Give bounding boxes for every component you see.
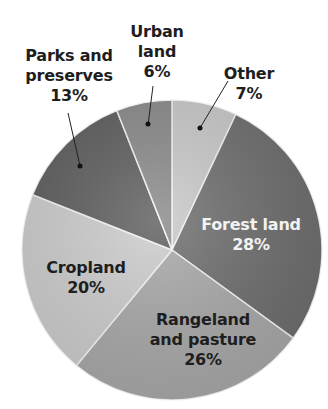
label-urban-value: 6% [122, 62, 192, 82]
leader-dot-parks [78, 164, 83, 169]
label-parks-line1: Parks and [14, 46, 124, 66]
label-forest-value: 28% [196, 235, 306, 255]
label-rangeland-line2: and pasture [138, 330, 268, 350]
label-other: Other 7% [214, 64, 284, 104]
label-parks-value: 13% [14, 86, 124, 106]
label-parks-line2: preserves [14, 66, 124, 86]
leader-dot-urban [146, 122, 151, 127]
leader-dot-other [198, 126, 203, 131]
label-cropland-line1: Cropland [36, 258, 136, 278]
label-rangeland-line1: Rangeland [138, 310, 268, 330]
label-other-line1: Other [214, 64, 284, 84]
label-rangeland: Rangeland and pasture 26% [138, 310, 268, 370]
label-forest: Forest land 28% [196, 215, 306, 255]
label-other-value: 7% [214, 84, 284, 104]
label-cropland-value: 20% [36, 278, 136, 298]
label-cropland: Cropland 20% [36, 258, 136, 298]
label-rangeland-value: 26% [138, 350, 268, 370]
label-parks: Parks and preserves 13% [14, 46, 124, 106]
label-forest-line1: Forest land [196, 215, 306, 235]
label-urban-line1: Urban [122, 22, 192, 42]
label-urban: Urban land 6% [122, 22, 192, 82]
label-urban-line2: land [122, 42, 192, 62]
